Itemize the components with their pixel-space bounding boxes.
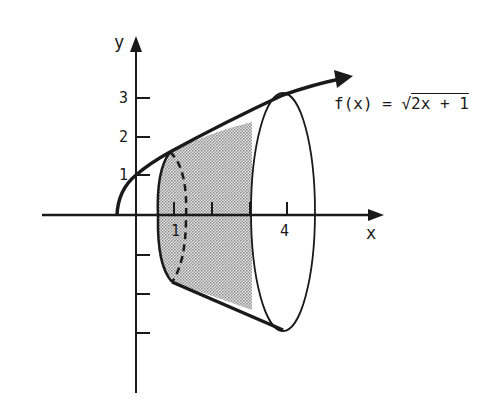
y-tick-label-2: 2	[119, 130, 128, 145]
x-tick-label-4: 4	[280, 224, 289, 239]
y-axis-label: y	[114, 34, 124, 51]
y-axis-arrow-icon	[130, 36, 142, 52]
x-axis-label: x	[366, 225, 376, 242]
right-disk-ellipse	[251, 93, 315, 331]
y-tick-label-3: 3	[119, 91, 128, 106]
function-radicand: 2x + 1	[411, 94, 469, 113]
function-label: f(x) = √2x + 1	[334, 96, 469, 112]
x-tick-label-1: 1	[171, 224, 180, 239]
x-axis-arrow-icon	[368, 209, 384, 221]
solid-of-revolution-diagram: y x 3 2 1 1 4 f(x) = √2x + 1	[0, 0, 502, 415]
y-tick-label-1: 1	[119, 168, 128, 183]
sqrt-symbol: √	[401, 94, 411, 113]
diagram-canvas	[0, 0, 502, 415]
curve-arrow-icon	[334, 70, 353, 88]
function-label-prefix: f(x) =	[334, 94, 401, 113]
